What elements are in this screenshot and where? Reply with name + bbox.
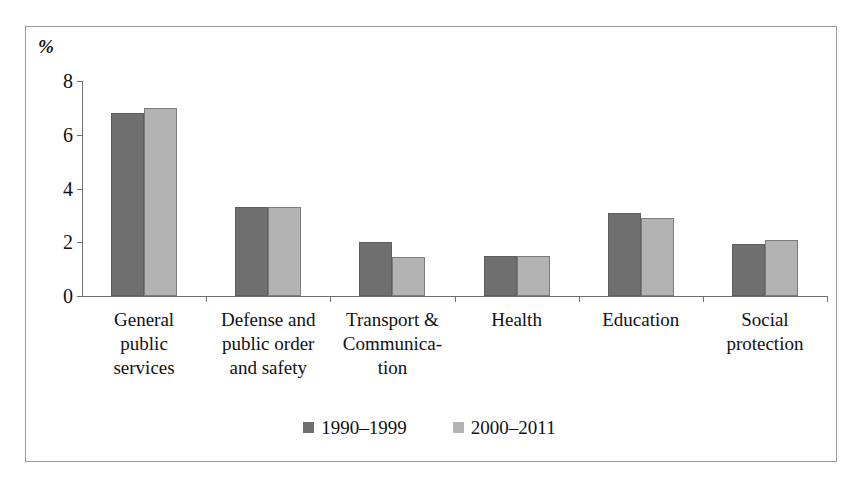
legend-swatch-icon — [453, 422, 464, 433]
category-label-line: Education — [579, 308, 703, 332]
bar-1-0 — [144, 108, 177, 296]
x-axis-tick-mark — [703, 296, 704, 302]
category-label-5: Socialprotection — [703, 308, 827, 356]
y-axis-tick-label: 0 — [63, 286, 73, 306]
category-label-line: Transport & — [330, 308, 454, 332]
category-label-2: Transport &Communica-tion — [330, 308, 454, 380]
bar-group — [608, 81, 674, 296]
category-label-4: Education — [579, 308, 703, 332]
legend-item-1: 2000–2011 — [453, 418, 556, 437]
category-label-line: Communica- — [330, 332, 454, 356]
bar-1-2 — [392, 257, 425, 296]
y-axis-line — [82, 81, 83, 296]
bar-group — [111, 81, 177, 296]
x-axis-tick-mark — [455, 296, 456, 302]
bar-0-2 — [359, 242, 392, 296]
category-label-line: services — [82, 356, 206, 380]
y-axis-tick-label: 8 — [63, 71, 73, 91]
legend-label: 2000–2011 — [471, 418, 556, 437]
y-axis-tick-label: 4 — [63, 179, 73, 199]
category-label-line: public — [82, 332, 206, 356]
y-axis-tick-mark — [77, 81, 82, 82]
y-axis-tick-mark — [77, 189, 82, 190]
bar-1-1 — [268, 207, 301, 296]
legend-label: 1990–1999 — [321, 418, 407, 437]
category-label-line: General — [82, 308, 206, 332]
legend-swatch-icon — [303, 422, 314, 433]
category-label-0: Generalpublicservices — [82, 308, 206, 380]
category-label-line: Health — [455, 308, 579, 332]
bar-1-5 — [765, 240, 798, 296]
bar-0-5 — [732, 244, 765, 296]
y-axis-tick-mark — [77, 135, 82, 136]
legend-item-0: 1990–1999 — [303, 418, 407, 437]
bar-1-3 — [517, 256, 550, 296]
category-label-1: Defense andpublic orderand safety — [206, 308, 330, 380]
category-label-line: public order — [206, 332, 330, 356]
category-label-line: protection — [703, 332, 827, 356]
category-label-line: Defense and — [206, 308, 330, 332]
y-axis-tick-label: 6 — [63, 125, 73, 145]
bar-0-4 — [608, 213, 641, 296]
chart-legend: 1990–19992000–2011 — [0, 418, 859, 437]
y-axis-tick-label: 2 — [63, 232, 73, 252]
x-axis-tick-mark — [827, 296, 828, 302]
bar-1-4 — [641, 218, 674, 296]
y-axis-tick-mark — [77, 296, 82, 297]
bar-0-3 — [484, 256, 517, 296]
category-label-line: tion — [330, 356, 454, 380]
chart-figure: % 02468 GeneralpublicservicesDefense and… — [0, 0, 859, 486]
bar-0-1 — [235, 207, 268, 296]
bar-group — [484, 81, 550, 296]
category-label-line: and safety — [206, 356, 330, 380]
x-axis-tick-mark — [579, 296, 580, 302]
bar-group — [732, 81, 798, 296]
bar-group — [235, 81, 301, 296]
category-label-line: Social — [703, 308, 827, 332]
y-axis-unit-label: % — [38, 36, 54, 58]
x-axis-tick-mark — [206, 296, 207, 302]
plot-area: 02468 — [82, 81, 827, 296]
x-axis-tick-mark — [330, 296, 331, 302]
y-axis-tick-mark — [77, 242, 82, 243]
category-label-3: Health — [455, 308, 579, 332]
bar-group — [359, 81, 425, 296]
bar-0-0 — [111, 113, 144, 296]
